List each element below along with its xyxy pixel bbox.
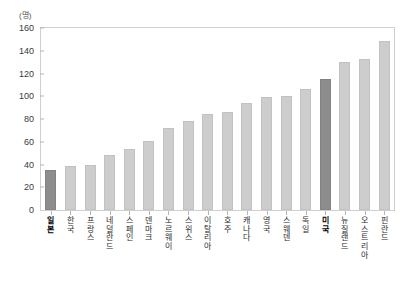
- x-axis-tick-label: 뉴질랜드: [340, 217, 349, 281]
- x-axis-tick-label: 일본: [46, 217, 55, 281]
- x-axis-tick-mark: [345, 211, 346, 215]
- bar-chart: (명) 160140120100806040200 일본한국프랑스네덜란드스페인…: [0, 0, 413, 284]
- x-axis-tick-mark: [149, 211, 150, 215]
- x-axis-tick-label: 독일: [301, 217, 310, 281]
- bar: [320, 79, 331, 210]
- y-axis-tick-label: 140: [19, 46, 34, 55]
- bar: [104, 155, 115, 210]
- y-axis-tick-label: 60: [24, 137, 34, 146]
- bar: [202, 114, 213, 210]
- x-label-slot: 핀란드: [374, 217, 394, 281]
- x-axis-tick-mark: [306, 211, 307, 215]
- x-axis-tick-mark: [168, 211, 169, 215]
- bar-slot: [335, 28, 355, 210]
- bar: [222, 112, 233, 210]
- bar-slot: [257, 28, 277, 210]
- x-axis-tick-label: 덴마크: [144, 217, 153, 281]
- x-label-slot: 한국: [61, 217, 81, 281]
- x-axis-tick-label: 프랑스: [86, 217, 95, 281]
- x-axis-tick-label: 호주: [223, 217, 232, 281]
- bar-slot: [178, 28, 198, 210]
- x-axis-tick-label: 네덜란드: [105, 217, 114, 281]
- y-axis-tick-label: 40: [24, 160, 34, 169]
- x-label-slot: 일본: [41, 217, 61, 281]
- x-axis-tick-label: 캐나다: [242, 217, 251, 281]
- x-axis-tick-label: 스웨덴: [282, 217, 291, 281]
- x-label-slot: 이탈리아: [198, 217, 218, 281]
- x-axis-tick-mark: [325, 211, 326, 215]
- x-label-slot: 덴마크: [139, 217, 159, 281]
- x-axis-tick-mark: [365, 211, 366, 215]
- bar-slot: [276, 28, 296, 210]
- bar: [124, 149, 135, 210]
- y-axis-tick-label: 160: [19, 24, 34, 33]
- bar-series: [41, 28, 394, 210]
- x-label-slot: 네덜란드: [100, 217, 120, 281]
- bar-slot: [217, 28, 237, 210]
- x-label-slot: 프랑스: [80, 217, 100, 281]
- x-axis-tick-mark: [384, 211, 385, 215]
- bar: [65, 166, 76, 210]
- x-label-slot: 미국: [316, 217, 336, 281]
- x-axis-tick-label: 노르웨이: [164, 217, 173, 281]
- x-axis-tick-label: 핀란드: [380, 217, 389, 281]
- x-axis-tick-mark: [286, 211, 287, 215]
- bar: [339, 62, 350, 210]
- x-axis-tick-mark: [227, 211, 228, 215]
- bar: [359, 59, 370, 210]
- x-axis-tick-label: 미국: [321, 217, 330, 281]
- x-axis-tick-mark: [70, 211, 71, 215]
- x-axis-tick-mark: [110, 211, 111, 215]
- y-axis-tick-label: 80: [24, 115, 34, 124]
- bar: [241, 103, 252, 210]
- bar-slot: [100, 28, 120, 210]
- bar-slot: [355, 28, 375, 210]
- x-label-slot: 캐나다: [237, 217, 257, 281]
- bar-slot: [80, 28, 100, 210]
- bar: [300, 89, 311, 210]
- x-axis-tick-label: 한국: [66, 217, 75, 281]
- x-axis-tick-mark: [267, 211, 268, 215]
- x-axis-tick-mark: [129, 211, 130, 215]
- bar: [379, 41, 390, 210]
- bar: [143, 141, 154, 210]
- x-axis-tick-label: 스위스: [184, 217, 193, 281]
- x-axis-tick-mark: [208, 211, 209, 215]
- x-axis-tick-mark: [188, 211, 189, 215]
- y-axis: 160140120100806040200: [0, 27, 40, 211]
- bar: [183, 121, 194, 210]
- bar-slot: [119, 28, 139, 210]
- x-axis-tick-label: 오스트리아: [360, 217, 369, 281]
- bar: [261, 97, 272, 210]
- x-label-slot: 독일: [296, 217, 316, 281]
- bar: [85, 165, 96, 211]
- x-axis-tick-label: 이탈리아: [203, 217, 212, 281]
- bar-slot: [61, 28, 81, 210]
- x-label-slot: 스웨덴: [276, 217, 296, 281]
- x-axis-tick-label: 영국: [262, 217, 271, 281]
- y-axis-tick-label: 0: [29, 206, 34, 215]
- y-axis-tick-label: 120: [19, 69, 34, 78]
- x-label-slot: 호주: [217, 217, 237, 281]
- y-axis-tick-label: 20: [24, 183, 34, 192]
- bar: [45, 170, 56, 210]
- bar-slot: [159, 28, 179, 210]
- bar-slot: [374, 28, 394, 210]
- y-axis-tick-label: 100: [19, 92, 34, 101]
- x-label-slot: 스페인: [119, 217, 139, 281]
- x-label-slot: 뉴질랜드: [335, 217, 355, 281]
- bar-slot: [41, 28, 61, 210]
- bar: [281, 96, 292, 210]
- bar-slot: [139, 28, 159, 210]
- x-axis-tick-mark: [51, 211, 52, 215]
- bar: [163, 128, 174, 210]
- bar-slot: [237, 28, 257, 210]
- x-axis-tick-mark: [90, 211, 91, 215]
- x-axis-tick-mark: [247, 211, 248, 215]
- x-label-slot: 오스트리아: [355, 217, 375, 281]
- bar-slot: [316, 28, 336, 210]
- bar-slot: [296, 28, 316, 210]
- x-axis-tick-label: 스페인: [125, 217, 134, 281]
- x-label-slot: 영국: [257, 217, 277, 281]
- x-label-slot: 스위스: [178, 217, 198, 281]
